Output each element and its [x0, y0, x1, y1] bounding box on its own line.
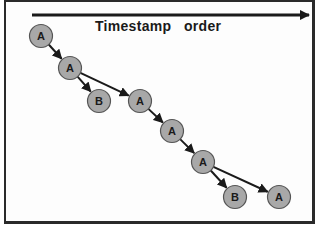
- node-label: A: [199, 156, 207, 168]
- edge-arrow: [148, 109, 162, 123]
- node-a: A: [129, 90, 152, 113]
- node-label: A: [275, 191, 283, 203]
- node-label: A: [66, 62, 74, 74]
- node-a: A: [30, 25, 53, 48]
- node-label: A: [37, 30, 45, 42]
- edge-arrow: [49, 45, 62, 59]
- node-a: A: [192, 151, 215, 174]
- node-a: A: [59, 57, 82, 80]
- node-label: B: [95, 95, 103, 107]
- edge-arrow: [211, 170, 227, 187]
- node-label: A: [168, 125, 176, 137]
- node-a: A: [268, 186, 291, 209]
- edge-arrow: [78, 77, 91, 92]
- nodes-layer: AABAAABA: [30, 25, 291, 209]
- node-a: A: [161, 120, 184, 143]
- node-label: B: [231, 191, 239, 203]
- node-label: A: [136, 95, 144, 107]
- edge-arrow: [180, 139, 194, 153]
- timestamp-order-label: Timestamp order: [95, 18, 221, 34]
- node-b: B: [88, 90, 111, 113]
- node-b: B: [224, 186, 247, 209]
